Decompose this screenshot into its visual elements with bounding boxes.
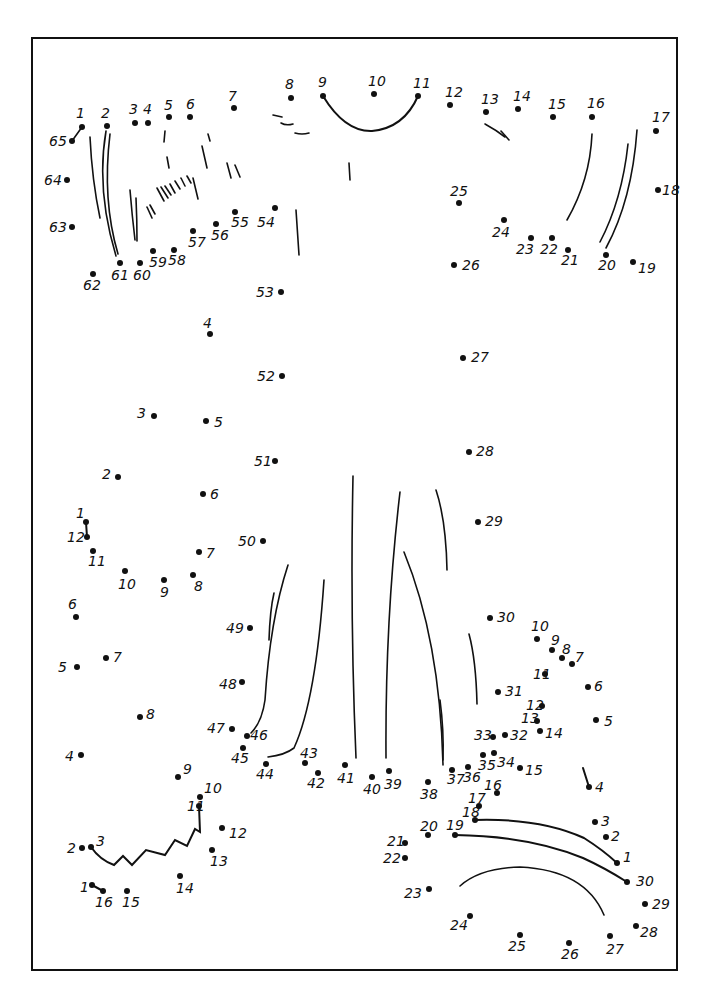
puzzle-main-figure: 1234567891011121314151617181920212223242… (44, 73, 680, 802)
dot-label: 5 (604, 713, 613, 729)
dot-label: 14 (545, 725, 563, 741)
dot-label: 11 (88, 553, 106, 569)
dot-label: 40 (363, 781, 381, 797)
dot-label: 53 (256, 284, 274, 300)
dot-label: 3 (137, 405, 146, 421)
dot-label: 5 (164, 97, 173, 113)
dot-label: 25 (450, 183, 468, 199)
dot-label: 20 (598, 257, 616, 273)
dot-label: 59 (149, 254, 167, 270)
dot-label: 9 (160, 584, 169, 600)
dot-11 (415, 93, 421, 99)
dot-label: 51 (254, 453, 272, 469)
dot-label: 12 (445, 84, 463, 100)
dot-label: 4 (143, 101, 152, 117)
dot-label: 29 (485, 513, 503, 529)
dot-12 (84, 534, 90, 540)
dot-label: 39 (384, 776, 402, 792)
dot-1 (79, 124, 85, 130)
dot-30 (624, 879, 630, 885)
dot-label: 50 (238, 533, 256, 549)
dot-label: 18 (462, 804, 480, 820)
dot-2 (104, 123, 110, 129)
dot-label: 42 (307, 775, 325, 791)
dot-2 (79, 845, 85, 851)
dot-23 (426, 886, 432, 892)
dot-label: 16 (484, 777, 502, 793)
dot-label: 25 (508, 938, 526, 954)
dot-64 (64, 177, 70, 183)
numbered-dots: 1234567891011121314151617181920212223242… (44, 73, 680, 962)
dot-label: 14 (513, 88, 531, 104)
dot-label: 1 (76, 105, 85, 121)
dot-14 (537, 728, 543, 734)
dot-label: 7 (206, 545, 215, 561)
dot-15 (550, 114, 556, 120)
dot-label: 46 (250, 727, 268, 743)
dot-label: 4 (595, 779, 604, 795)
dot-8 (288, 95, 294, 101)
dot-label: 23 (516, 241, 534, 257)
dot-12 (219, 825, 225, 831)
dot-label: 26 (462, 257, 480, 273)
dot-label: 55 (231, 214, 249, 230)
dot-label: 10 (118, 576, 136, 592)
worksheet: 1234567891011121314151617181920212223242… (0, 0, 719, 999)
dot-label: 20 (420, 818, 438, 834)
dot-29 (642, 901, 648, 907)
dot-label: 19 (446, 817, 464, 833)
dot-label: 63 (49, 219, 67, 235)
dot-41 (342, 762, 348, 768)
dot-label: 12 (67, 529, 85, 545)
dot-label: 10 (531, 618, 549, 634)
dot-label: 30 (497, 609, 515, 625)
dot-label: 26 (561, 946, 579, 962)
dot-label: 8 (562, 641, 571, 657)
dot-label: 2 (101, 105, 110, 121)
dot-5 (593, 717, 599, 723)
dot-label: 29 (652, 896, 670, 912)
dot-label: 19 (638, 260, 656, 276)
dot-label: 11 (187, 798, 205, 814)
dot-5 (166, 114, 172, 120)
dot-4 (207, 331, 213, 337)
dot-48 (239, 679, 245, 685)
dot-6 (187, 114, 193, 120)
dot-17 (653, 128, 659, 134)
dot-label: 14 (176, 880, 194, 896)
dot-label: 4 (65, 748, 74, 764)
dot-label: 9 (318, 74, 327, 90)
dot-label: 60 (133, 267, 151, 283)
dot-label: 16 (587, 95, 605, 111)
dot-31 (495, 689, 501, 695)
dot-label: 17 (652, 109, 670, 125)
dot-7 (196, 549, 202, 555)
dot-27 (607, 933, 613, 939)
dot-label: 10 (204, 780, 222, 796)
dot-label: 12 (229, 825, 247, 841)
dot-label: 56 (211, 227, 229, 243)
dot-54 (272, 205, 278, 211)
dot-49 (247, 625, 253, 631)
dot-2 (115, 474, 121, 480)
dot-30 (487, 615, 493, 621)
dot-2 (603, 834, 609, 840)
dot-label: 58 (168, 252, 186, 268)
dot-label: 6 (186, 96, 195, 112)
dot-label: 32 (510, 727, 528, 743)
dot-5 (203, 418, 209, 424)
arc-9-11 (323, 96, 418, 131)
dot-10 (122, 568, 128, 574)
dot-3 (592, 819, 598, 825)
dot-7 (231, 105, 237, 111)
dot-label: 28 (476, 443, 494, 459)
dot-3 (151, 413, 157, 419)
dot-4 (586, 784, 592, 790)
dot-label: 3 (601, 813, 610, 829)
dot-15 (517, 765, 523, 771)
dot-label: 21 (561, 252, 579, 268)
dot-label: 49 (226, 620, 244, 636)
dot-51 (272, 458, 278, 464)
dot-label: 15 (525, 762, 543, 778)
dot-label: 5 (58, 659, 67, 675)
